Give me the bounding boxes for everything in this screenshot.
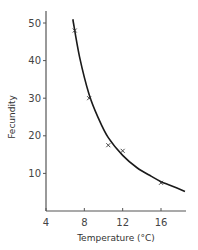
data-point-x-marker <box>106 143 110 147</box>
y-tick-label: 40 <box>28 55 41 66</box>
x-axis-label: Temperature (°C) <box>76 233 155 243</box>
y-tick-label: 50 <box>28 18 41 29</box>
y-tick-label: 30 <box>28 93 41 104</box>
fitted-curve <box>73 19 185 191</box>
fecundity-temperature-chart: 1020304050 481216 Fecundity Temperature … <box>0 0 198 250</box>
data-points <box>73 29 163 185</box>
y-tick-label: 10 <box>28 168 41 179</box>
y-axis-label: Fecundity <box>7 95 17 139</box>
x-tick-label: 8 <box>81 217 87 228</box>
x-tick-label: 4 <box>43 217 49 228</box>
y-ticks: 1020304050 <box>28 18 46 179</box>
data-point-x-marker <box>121 149 125 153</box>
axes <box>46 11 186 211</box>
y-tick-label: 20 <box>28 130 41 141</box>
x-tick-label: 16 <box>155 217 168 228</box>
x-tick-label: 12 <box>116 217 129 228</box>
